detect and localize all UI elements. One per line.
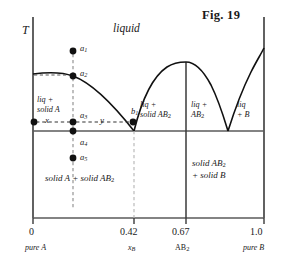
region-label-liq-solid-ab2-line2: solid AB	[140, 110, 168, 119]
tick-caption-xb-sub: B	[132, 245, 136, 252]
region-label-liq-solid-a-line2: solid A	[37, 105, 60, 114]
region-label-liq-b: liq + B	[237, 100, 250, 119]
region-label-liquid: liquid	[113, 22, 140, 34]
tick-caption-pure-a: pure A	[25, 243, 46, 252]
point-a5-marker	[70, 155, 77, 162]
region-label-liq-solid-a-line1: liq +	[37, 95, 53, 104]
region-label-liq-b-line1: liq	[237, 100, 246, 109]
tick-value-067: 0.67	[172, 226, 190, 237]
liquidus-curve-AB2-left	[134, 62, 186, 131]
region-label-liq-solid-a: liq + solid A	[37, 95, 60, 114]
tick-caption-pure-b: pure B	[243, 243, 264, 252]
tick-caption-ab2-letters: AB	[175, 243, 186, 252]
point-label-a3-sub: 3	[84, 113, 87, 120]
point-label-a3: a3	[80, 110, 87, 120]
diagram-canvas	[0, 0, 289, 264]
point-label-b1: b1	[131, 106, 138, 116]
region-label-liq-ab2-sub: 2	[201, 112, 204, 119]
region-label-liq-ab2-line2: AB	[191, 110, 201, 119]
region-label-liq-solid-ab2: liq + solid AB2	[140, 100, 171, 120]
region-label-solidab2-solidb-line1: solid AB	[192, 158, 223, 168]
region-label-solidab2-solidb-sub: 2	[223, 161, 226, 168]
point-label-a2: a2	[80, 68, 87, 78]
point-a1-marker	[70, 48, 77, 55]
point-label-a5: a5	[80, 152, 87, 162]
point-label-a1: a1	[80, 43, 87, 53]
liquidus-curve-AB2-right	[186, 62, 228, 131]
lever-label-x: x	[45, 115, 49, 125]
point-label-a5-sub: 5	[84, 155, 87, 162]
point-label-a1-sub: 1	[84, 46, 87, 53]
region-label-solida-solidab2-sub: 2	[111, 176, 114, 183]
region-label-liq-ab2-line1: liq +	[191, 100, 207, 109]
point-solidA-lever-marker	[31, 119, 38, 126]
lever-label-y: y	[100, 115, 104, 125]
region-label-solidab2-solidb-line2: + solid B	[192, 170, 226, 180]
tick-caption-ab2-sub: 2	[186, 245, 189, 252]
point-b1-marker	[130, 119, 137, 126]
tick-value-0: 0	[29, 226, 34, 237]
region-label-liq-b-line2: + B	[237, 110, 250, 119]
region-label-liq-solid-ab2-line1: liq +	[140, 100, 156, 109]
point-label-b1-sub: 1	[135, 109, 138, 116]
point-a4-marker	[70, 128, 77, 135]
region-label-liq-solid-ab2-sub: 2	[168, 112, 171, 119]
region-label-solida-solidab2: solid A + solid AB2	[45, 174, 114, 185]
point-label-a2-sub: 2	[84, 71, 87, 78]
region-label-solidab2-solidb: solid AB2 + solid B	[192, 158, 226, 181]
point-a3-marker	[70, 119, 77, 126]
y-axis-label: T	[22, 23, 29, 38]
point-label-a4: a4	[80, 137, 87, 147]
point-a2-marker	[70, 73, 77, 80]
region-label-solida-solidab2-text: solid A + solid AB	[45, 173, 111, 183]
tick-caption-ab2: AB2	[175, 243, 189, 252]
tick-caption-xb: xB	[128, 243, 135, 252]
tick-value-042: 0.42	[120, 226, 138, 237]
figure-title: Fig. 19	[202, 8, 240, 23]
region-label-liq-ab2: liq + AB2	[191, 100, 207, 120]
tick-value-10: 1.0	[250, 226, 263, 237]
point-label-a4-sub: 4	[84, 140, 87, 147]
phase-diagram-figure: Fig. 19 T liquid liq + solid A liq + sol…	[0, 0, 289, 264]
